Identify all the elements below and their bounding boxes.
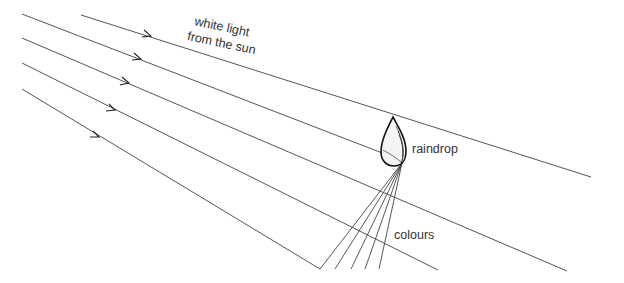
colour-ray-5: [379, 163, 402, 269]
sunlight-label: white light from the sun: [186, 13, 260, 57]
arrow-icon: [90, 131, 99, 137]
colours-label: colours: [394, 228, 434, 242]
rainbow-diagram: white light from the sun raindrop colour…: [0, 0, 624, 283]
diagram-canvas: white light from the sun raindrop colour…: [0, 0, 624, 283]
colour-ray-2: [335, 163, 402, 269]
incoming-rays: [22, 14, 591, 271]
dispersed-colour-rays: [320, 163, 402, 269]
sun-ray-3: [22, 38, 567, 271]
colour-ray-1: [320, 163, 402, 269]
raindrop-label: raindrop: [412, 142, 458, 156]
colour-ray-3: [351, 163, 402, 269]
raindrop-icon: [381, 117, 406, 166]
direction-arrows: [90, 30, 151, 137]
colour-ray-4: [365, 163, 402, 269]
sun-ray-5: [22, 89, 320, 269]
arrow-icon: [142, 30, 151, 37]
